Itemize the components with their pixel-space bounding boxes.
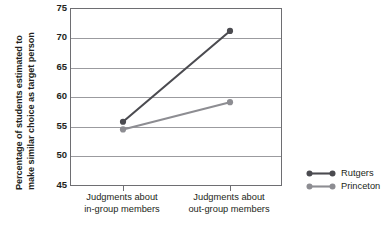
data-point-rutgers-in-group: [120, 119, 126, 125]
y-tick-label-55: 55: [41, 121, 67, 131]
line-chart: Percentage of students estimated to make…: [0, 0, 389, 230]
data-point-princeton-in-group: [120, 126, 126, 132]
y-tick-label-60: 60: [41, 91, 67, 101]
y-axis-title: Percentage of students estimated to make…: [0, 0, 46, 195]
legend-label-princeton: Princeton: [341, 181, 380, 192]
y-axis-title-line-2: make similar choice as target person: [26, 32, 38, 190]
y-axis-title-line-1: Percentage of students estimated to: [14, 35, 26, 190]
x-axis-label-out-group: Judgments about out-group members: [164, 192, 294, 215]
data-point-rutgers-out-group: [227, 28, 233, 34]
data-point-princeton-out-group: [227, 99, 233, 105]
x-axis-label-out-group-line-2: out-group members: [164, 204, 294, 216]
legend-swatch-princeton: [306, 181, 336, 192]
legend-item-princeton[interactable]: Princeton: [306, 180, 380, 193]
x-axis-label-out-group-line-1: Judgments about: [164, 192, 294, 204]
legend-item-rutgers[interactable]: Rutgers: [306, 167, 380, 180]
y-tick-label-45: 45: [41, 180, 67, 190]
series-layer: [71, 9, 283, 187]
plot-area: [70, 8, 282, 186]
y-tick-label-65: 65: [41, 62, 67, 72]
y-tick-label-70: 70: [41, 32, 67, 42]
legend-swatch-rutgers: [306, 168, 336, 179]
y-tick-label-75: 75: [41, 3, 67, 13]
legend: Rutgers Princeton: [306, 167, 380, 193]
series-line-princeton: [123, 102, 230, 129]
series-princeton: [120, 99, 233, 132]
series-rutgers: [120, 28, 233, 125]
y-tick-label-50: 50: [41, 150, 67, 160]
series-line-rutgers: [123, 31, 230, 122]
legend-label-rutgers: Rutgers: [341, 168, 374, 179]
